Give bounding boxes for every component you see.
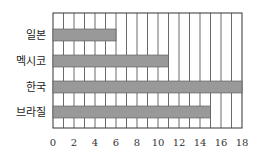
x-tick-label: 18 (236, 137, 249, 148)
x-tick-label: 6 (113, 137, 119, 148)
category-label: 브라질 (16, 106, 46, 119)
x-tick-label: 0 (50, 137, 56, 148)
x-tick-label: 8 (134, 137, 140, 148)
bar (53, 81, 242, 93)
x-tick-label: 10 (152, 137, 165, 148)
category-label: 한국 (26, 81, 46, 94)
category-label: 일본 (26, 28, 46, 42)
x-tick-label: 16 (215, 137, 228, 148)
x-tick-label: 12 (173, 137, 186, 148)
bar (53, 55, 169, 67)
x-tick-label: 4 (92, 137, 98, 148)
x-tick-labels: 024681012141618 (50, 137, 249, 148)
bar (53, 29, 116, 41)
bar (53, 106, 211, 118)
x-tick-label: 14 (194, 137, 207, 148)
category-labels: 일본멕시코한국브라질 (16, 28, 46, 119)
bar-chart: 일본멕시코한국브라질 024681012141618 (0, 0, 261, 156)
category-label: 멕시코 (16, 55, 46, 68)
x-tick-label: 2 (71, 137, 77, 148)
